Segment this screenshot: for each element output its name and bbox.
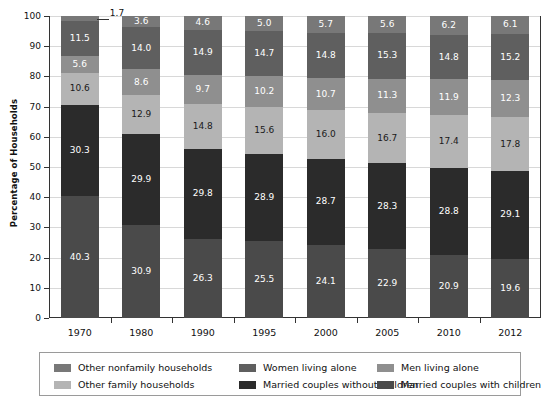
- bar-segment[interactable]: 17.4: [430, 115, 468, 168]
- bar-segment[interactable]: 14.7: [245, 31, 283, 75]
- bar-2012[interactable]: 19.629.117.812.315.26.1: [491, 16, 529, 318]
- bar-2000[interactable]: 24.128.716.010.714.85.7: [307, 16, 345, 318]
- legend-item[interactable]: Other nonfamily households: [54, 359, 212, 376]
- y-axis-tick-label: 20: [11, 253, 41, 263]
- bar-segment[interactable]: 5.7: [307, 16, 345, 33]
- bar-1980[interactable]: 30.929.912.98.614.03.6: [122, 16, 160, 318]
- bar-segment[interactable]: 30.9: [122, 225, 160, 318]
- legend-label: Other family households: [78, 380, 194, 390]
- bar-segment[interactable]: 28.7: [307, 159, 345, 246]
- bar-segment-value: 12.3: [500, 94, 520, 103]
- bar-segment[interactable]: 5.6: [61, 56, 99, 73]
- bar-segment-value: 11.9: [439, 93, 459, 102]
- bar-segment-value: 28.3: [377, 202, 397, 211]
- legend-item[interactable]: Married couples with children: [377, 376, 541, 393]
- y-axis-tick-label: 80: [11, 71, 41, 81]
- x-axis-tick-mark: [295, 318, 296, 323]
- bar-segment[interactable]: 14.8: [430, 35, 468, 80]
- bar-segment[interactable]: 29.9: [122, 134, 160, 224]
- bar-segment-value: 5.6: [380, 20, 394, 29]
- bar-segment[interactable]: 5.6: [368, 16, 406, 33]
- bar-segment[interactable]: 10.6: [61, 73, 99, 105]
- bar-segment-value: 5.6: [73, 60, 87, 69]
- bar-segment-value: 5.7: [319, 20, 333, 29]
- y-axis-tick-label: 100: [11, 11, 41, 21]
- bar-segment[interactable]: 14.0: [122, 27, 160, 69]
- bar-segment-value: 10.6: [70, 84, 90, 93]
- bar-segment[interactable]: 29.1: [491, 171, 529, 259]
- legend-color-swatch: [377, 364, 394, 372]
- bar-1990[interactable]: 26.329.814.89.714.94.6: [184, 16, 222, 318]
- bar-segment[interactable]: 26.3: [184, 239, 222, 318]
- bar-segment[interactable]: 15.6: [245, 107, 283, 154]
- bar-segment-value: 14.0: [131, 44, 151, 53]
- bar-segment[interactable]: 15.2: [491, 34, 529, 80]
- bar-segment[interactable]: 19.6: [491, 259, 529, 318]
- bar-segment-value: 28.9: [254, 193, 274, 202]
- bar-segment[interactable]: 40.3: [61, 196, 99, 318]
- bar-segment[interactable]: 11.5: [61, 21, 99, 56]
- bar-segment[interactable]: 3.6: [122, 16, 160, 27]
- bar-segment[interactable]: 20.9: [430, 255, 468, 318]
- legend-item[interactable]: Other family households: [54, 376, 194, 393]
- x-axis-tick-label: 2000: [295, 327, 357, 338]
- bar-segment[interactable]: 11.9: [430, 79, 468, 115]
- plot-area: 0102030405060708090100 40.330.310.65.611…: [49, 16, 541, 318]
- bar-segment-value: 10.7: [316, 90, 336, 99]
- bar-segment[interactable]: 5.0: [245, 16, 283, 31]
- bar-segment[interactable]: [61, 16, 99, 21]
- bar-segment[interactable]: 14.9: [184, 30, 222, 75]
- bar-segment-value: 14.9: [193, 48, 213, 57]
- bar-segment[interactable]: 30.3: [61, 105, 99, 197]
- bar-segment-value: 17.8: [500, 140, 520, 149]
- x-axis-tick-mark: [480, 318, 481, 323]
- bar-segment[interactable]: 6.1: [491, 16, 529, 34]
- bar-segment[interactable]: 14.8: [184, 104, 222, 149]
- bar-2010[interactable]: 20.928.817.411.914.86.2: [430, 16, 468, 318]
- annotation-leader-line: [97, 19, 109, 20]
- bar-segment[interactable]: 22.9: [368, 249, 406, 318]
- bar-segment[interactable]: 11.3: [368, 79, 406, 113]
- bar-segment-value: 6.1: [503, 20, 517, 29]
- bar-segment-value: 16.0: [316, 130, 336, 139]
- x-axis-tick-label: 1990: [172, 327, 234, 338]
- bar-segment[interactable]: 12.9: [122, 95, 160, 134]
- bar-segment[interactable]: 25.5: [245, 241, 283, 318]
- bar-segment[interactable]: 16.7: [368, 113, 406, 163]
- bar-segment[interactable]: 17.8: [491, 117, 529, 171]
- bar-segment-value: 11.3: [377, 91, 397, 100]
- bar-segment[interactable]: 28.8: [430, 168, 468, 255]
- bar-segment[interactable]: 16.0: [307, 110, 345, 158]
- x-axis-tick-mark: [111, 318, 112, 323]
- bar-segment-value: 24.1: [316, 277, 336, 286]
- bar-segment[interactable]: 28.3: [368, 163, 406, 248]
- bar-segment-value: 10.2: [254, 87, 274, 96]
- bar-2005[interactable]: 22.928.316.711.315.35.6: [368, 16, 406, 318]
- bar-segment[interactable]: 14.8: [307, 33, 345, 78]
- bar-segment[interactable]: 24.1: [307, 245, 345, 318]
- bar-segment-value: 15.6: [254, 126, 274, 135]
- bar-segment-value: 22.9: [377, 279, 397, 288]
- bar-1970[interactable]: 40.330.310.65.611.5: [61, 16, 99, 318]
- bar-segment[interactable]: 9.7: [184, 75, 222, 104]
- bar-segment[interactable]: 15.3: [368, 33, 406, 79]
- legend-color-swatch: [377, 381, 394, 389]
- bar-segment-value: 14.8: [316, 51, 336, 60]
- legend-item[interactable]: Women living alone: [239, 359, 357, 376]
- bar-segment-value: 15.2: [500, 53, 520, 62]
- bar-segment[interactable]: 10.7: [307, 78, 345, 110]
- bar-segment[interactable]: 4.6: [184, 16, 222, 30]
- bar-segment[interactable]: 10.2: [245, 76, 283, 107]
- y-axis-tick-label: 0: [11, 313, 41, 323]
- bar-segment[interactable]: 8.6: [122, 69, 160, 95]
- bar-segment[interactable]: 6.2: [430, 16, 468, 35]
- bar-segment-value: 14.8: [439, 53, 459, 62]
- bar-segment[interactable]: 12.3: [491, 80, 529, 117]
- legend-item[interactable]: Men living alone: [377, 359, 479, 376]
- bar-1995[interactable]: 25.528.915.610.214.75.0: [245, 16, 283, 318]
- legend-color-swatch: [239, 381, 256, 389]
- y-axis-tick-label: 30: [11, 222, 41, 232]
- bar-segment[interactable]: 28.9: [245, 154, 283, 241]
- bar-segment-value: 4.6: [196, 18, 210, 27]
- bar-segment[interactable]: 29.8: [184, 149, 222, 239]
